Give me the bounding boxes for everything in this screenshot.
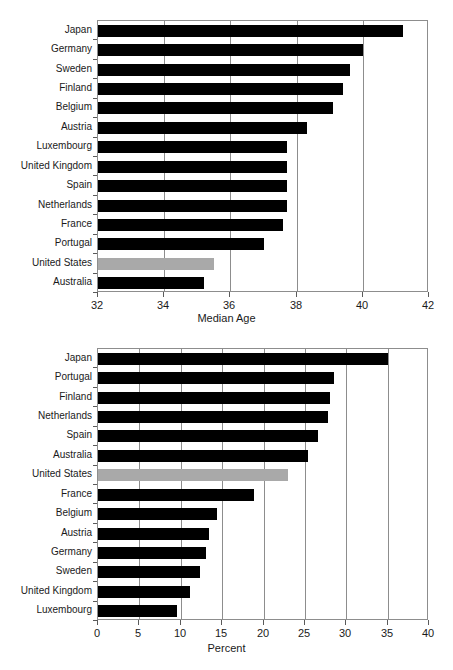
bar-united-kingdom — [98, 161, 287, 173]
category-label: Netherlands — [38, 410, 92, 421]
x-axis-tick — [229, 292, 230, 297]
y-axis-tick — [93, 406, 97, 407]
bar-sweden — [98, 566, 200, 578]
y-axis-tick — [93, 78, 97, 79]
gridline — [264, 349, 265, 619]
figure-page: JapanGermanySwedenFinlandBelgiumAustriaL… — [0, 0, 453, 670]
gridline — [230, 21, 231, 291]
bar-finland — [98, 83, 343, 95]
bar-united-states — [98, 258, 214, 270]
category-label: Sweden — [56, 63, 92, 74]
x-axis-tick — [428, 292, 429, 297]
y-axis-tick — [93, 39, 97, 40]
gridline — [164, 21, 165, 291]
gridline — [297, 21, 298, 291]
category-label: Portugal — [55, 237, 92, 248]
category-label: United States — [32, 468, 92, 479]
category-label: Australia — [53, 276, 92, 287]
x-axis-tick-label: 40 — [356, 299, 368, 311]
x-axis-tick — [97, 620, 98, 625]
x-axis-tick — [387, 620, 388, 625]
category-label: Austria — [61, 121, 92, 132]
category-label: Australia — [53, 449, 92, 460]
y-axis-tick — [93, 234, 97, 235]
y-axis-tick — [93, 59, 97, 60]
bar-japan — [98, 25, 403, 37]
bar-france — [98, 489, 254, 501]
x-axis-tick-label: 36 — [223, 299, 235, 311]
bar-sweden — [98, 64, 350, 76]
bar-portugal — [98, 372, 334, 384]
y-axis-tick — [93, 465, 97, 466]
category-label: Finland — [59, 391, 92, 402]
y-axis-tick — [93, 253, 97, 254]
x-axis-title: Percent — [0, 642, 453, 655]
x-axis-tick-label: 15 — [215, 627, 227, 639]
category-label: Germany — [51, 546, 92, 557]
y-axis-tick — [93, 117, 97, 118]
bar-luxembourg — [98, 141, 287, 153]
category-label: United States — [32, 257, 92, 268]
y-axis-tick — [93, 367, 97, 368]
gridline — [388, 349, 389, 619]
category-label: Luxembourg — [36, 604, 92, 615]
gridline — [222, 349, 223, 619]
y-axis-tick — [93, 273, 97, 274]
x-axis-tick — [138, 620, 139, 625]
gridline — [363, 21, 364, 291]
x-axis-tick-label: 40 — [422, 627, 434, 639]
category-label: Austria — [61, 527, 92, 538]
x-axis-tick — [345, 620, 346, 625]
y-axis-tick — [93, 214, 97, 215]
category-label: Belgium — [56, 507, 92, 518]
bar-spain — [98, 180, 287, 192]
plot-area-percent — [97, 348, 428, 620]
y-axis-tick — [93, 387, 97, 388]
x-axis-tick — [296, 292, 297, 297]
x-axis-tick — [362, 292, 363, 297]
category-label: Japan — [65, 24, 92, 35]
bar-germany — [98, 547, 206, 559]
gridline — [181, 349, 182, 619]
category-label: Belgium — [56, 101, 92, 112]
y-axis-tick — [93, 156, 97, 157]
y-axis-tick — [93, 601, 97, 602]
x-axis-tick-label: 25 — [298, 627, 310, 639]
category-label: Finland — [59, 82, 92, 93]
y-axis-tick — [93, 98, 97, 99]
x-axis-tick — [97, 292, 98, 297]
bar-belgium — [98, 508, 217, 520]
y-axis-tick — [93, 175, 97, 176]
x-axis-tick-label: 38 — [290, 299, 302, 311]
x-axis-tick — [428, 620, 429, 625]
bar-netherlands — [98, 200, 287, 212]
y-axis-tick — [93, 503, 97, 504]
category-label: Spain — [66, 429, 92, 440]
y-axis-tick — [93, 195, 97, 196]
category-label: France — [61, 218, 92, 229]
bar-austria — [98, 122, 307, 134]
bar-united-states — [98, 469, 288, 481]
x-axis-tick-label: 32 — [91, 299, 103, 311]
x-axis-title: Median Age — [0, 312, 453, 325]
bar-australia — [98, 450, 308, 462]
bar-netherlands — [98, 411, 328, 423]
bar-japan — [98, 353, 388, 365]
category-label: Germany — [51, 43, 92, 54]
x-axis-tick — [180, 620, 181, 625]
category-label: Sweden — [56, 565, 92, 576]
bar-luxembourg — [98, 605, 177, 617]
bar-australia — [98, 277, 204, 289]
x-axis-tick-label: 35 — [381, 627, 393, 639]
category-label: Japan — [65, 352, 92, 363]
x-axis-tick — [221, 620, 222, 625]
bar-spain — [98, 430, 318, 442]
gridline — [346, 349, 347, 619]
bar-belgium — [98, 102, 333, 114]
y-axis-tick — [93, 445, 97, 446]
y-axis-tick — [93, 137, 97, 138]
y-axis-tick — [93, 581, 97, 582]
y-axis-tick — [93, 484, 97, 485]
x-axis-tick-label: 34 — [157, 299, 169, 311]
category-label: France — [61, 488, 92, 499]
